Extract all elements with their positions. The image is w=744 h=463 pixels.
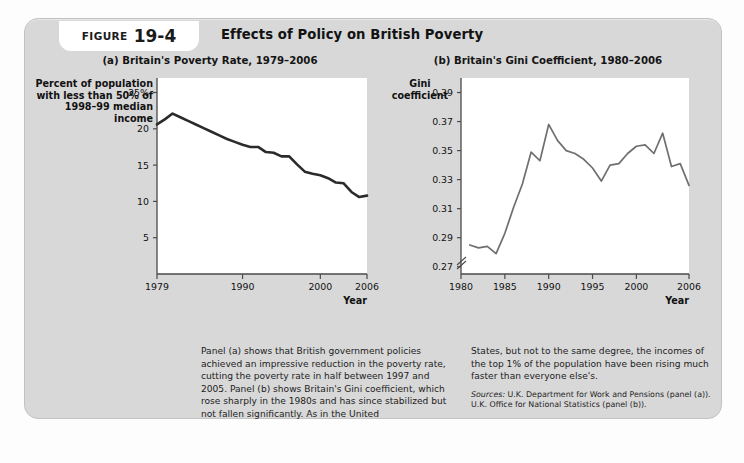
- x-tick-label: 1979: [145, 281, 169, 292]
- figure-label-word: FIGURE: [82, 30, 128, 42]
- panel-b: (b) Britain's Gini Coefficient, 1980–200…: [383, 55, 713, 298]
- sources-block: Sources: U.K. Department for Work and Pe…: [471, 390, 721, 411]
- y-tick-label: 0.27: [432, 261, 453, 272]
- x-axis-title: Year: [664, 295, 689, 306]
- x-tick-label: 1990: [231, 281, 255, 292]
- charts-container: (a) Britain's Poverty Rate, 1979–2006 Pe…: [25, 55, 721, 315]
- y-tick-label: 20: [137, 123, 149, 134]
- x-tick-label: 1980: [449, 281, 473, 292]
- x-tick-label: 2006: [677, 281, 701, 292]
- caption-right-column: States, but not to the same degree, the …: [471, 345, 721, 421]
- y-tick-label: 0.29: [432, 232, 453, 243]
- sources-text-1: U.K. Department for Work and Pensions (p…: [505, 390, 711, 399]
- y-tick-label: 10: [137, 196, 149, 207]
- x-tick-label: 1990: [537, 281, 561, 292]
- y-tick-label: 15: [137, 160, 149, 171]
- panel-a-plot: Percent of population with less than 50%…: [35, 72, 385, 298]
- panel-a-title: (a) Britain's Poverty Rate, 1979–2006: [35, 55, 385, 66]
- caption-left-text: Panel (a) shows that British government …: [201, 345, 451, 421]
- caption-right-text: States, but not to the same degree, the …: [471, 345, 721, 383]
- panel-b-svg: 0.390.370.350.330.310.290.27198019851990…: [383, 72, 713, 298]
- x-tick-label: 2006: [355, 281, 379, 292]
- panel-a: (a) Britain's Poverty Rate, 1979–2006 Pe…: [35, 55, 385, 298]
- figure-title: Effects of Policy on British Poverty: [221, 27, 483, 42]
- figure-panel: FIGURE 19-4 Effects of Policy on British…: [24, 18, 722, 419]
- y-tick-label: 5: [143, 232, 149, 243]
- y-tick-label: 0.31: [432, 203, 453, 214]
- sources-label: Sources:: [471, 390, 505, 399]
- sources-line-1: Sources: U.K. Department for Work and Pe…: [471, 390, 721, 400]
- caption-block: Panel (a) shows that British government …: [201, 345, 721, 421]
- panel-b-title: (b) Britain's Gini Coefficient, 1980–200…: [383, 55, 713, 66]
- panel-a-y-axis-title: Percent of population with less than 50%…: [35, 78, 153, 124]
- x-tick-label: 1985: [493, 281, 517, 292]
- caption-divider: [201, 337, 721, 338]
- figure-label-tab: FIGURE 19-4: [59, 21, 199, 51]
- x-axis-title: Year: [342, 295, 367, 306]
- x-tick-label: 2000: [624, 281, 648, 292]
- caption-left-column: Panel (a) shows that British government …: [201, 345, 451, 421]
- x-tick-label: 1995: [581, 281, 605, 292]
- panel-b-plot: Gini coefficient 0.390.370.350.330.310.2…: [383, 72, 713, 298]
- y-tick-label: 0.33: [432, 174, 453, 185]
- figure-number: 19-4: [134, 26, 177, 46]
- panel-b-y-axis-title: Gini coefficient: [383, 78, 457, 101]
- x-tick-label: 2000: [308, 281, 332, 292]
- y-tick-label: 0.35: [432, 145, 453, 156]
- figure-root: FIGURE 19-4 Effects of Policy on British…: [0, 0, 744, 463]
- sources-line-2: U.K. Office for National Statistics (pan…: [471, 400, 721, 410]
- y-tick-label: 0.37: [432, 116, 453, 127]
